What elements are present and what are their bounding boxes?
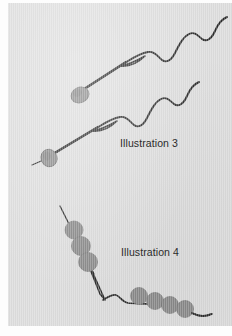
beaded-spermatozoon bbox=[60, 206, 212, 318]
upper-bead-chain bbox=[65, 221, 98, 272]
illustration-panel: Illustration 3 Illustration 4 bbox=[8, 3, 232, 326]
figure-root: Illustration 3 Illustration 4 bbox=[0, 0, 232, 336]
sperm-upper-tail bbox=[78, 17, 227, 93]
bead bbox=[131, 288, 148, 305]
bead bbox=[177, 301, 194, 318]
illustration-3-caption: Illustration 3 bbox=[120, 137, 178, 149]
spermatozoon-upper bbox=[68, 17, 227, 106]
bead bbox=[147, 293, 164, 310]
bead-chain-tail-end bbox=[192, 313, 211, 316]
illustration-4-caption: Illustration 4 bbox=[121, 246, 179, 258]
illustration-artwork bbox=[8, 3, 232, 326]
filament-kink-loop-icon bbox=[90, 269, 105, 300]
lower-bead-chain bbox=[131, 288, 194, 318]
spermatozoon-lower bbox=[32, 82, 199, 169]
bead bbox=[79, 253, 98, 272]
bead bbox=[162, 297, 179, 314]
